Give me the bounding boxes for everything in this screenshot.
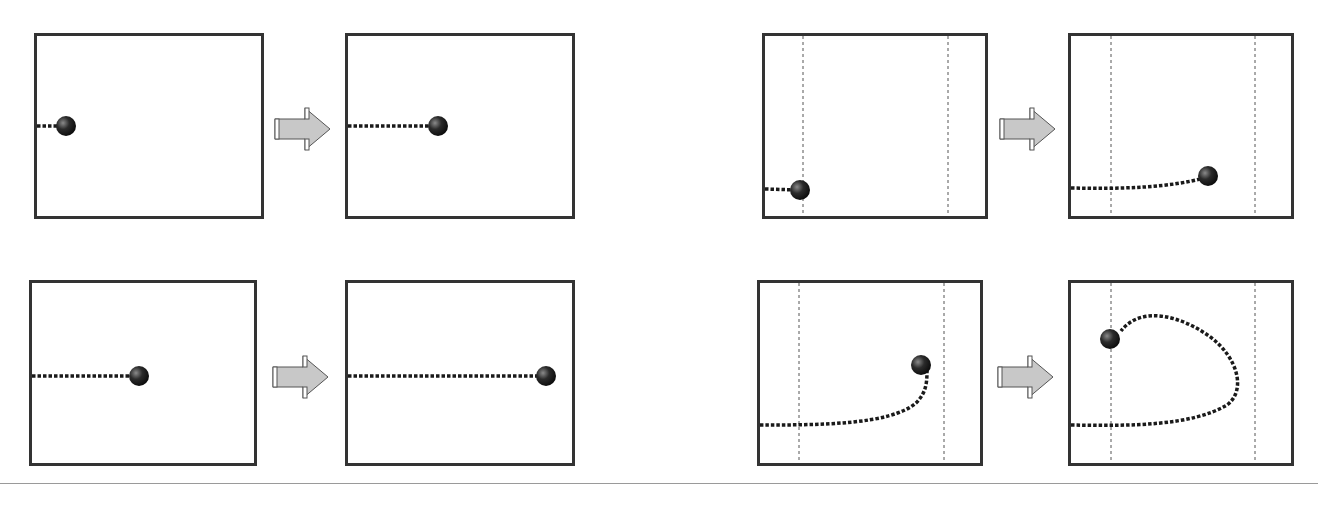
ball-icon (536, 366, 556, 386)
ball-icon (1198, 166, 1218, 186)
ball-icon (56, 116, 76, 136)
bottom-divider-line (0, 483, 1318, 484)
panel-row1-group1-before (34, 33, 264, 219)
panel-row1-group2-before (762, 33, 988, 219)
right-arrow-icon (274, 107, 332, 151)
panel-row2-group1-after (345, 280, 575, 466)
ball-icon (790, 180, 810, 200)
panel-row2-group2-after (1068, 280, 1294, 466)
ball-icon (911, 355, 931, 375)
panel-row1-group1-after (345, 33, 575, 219)
right-arrow-icon (272, 355, 330, 399)
trajectory-path (1071, 316, 1238, 426)
trajectory-path (1071, 177, 1207, 188)
right-arrow-icon (999, 107, 1057, 151)
panel-row1-group2-after (1068, 33, 1294, 219)
ball-icon (129, 366, 149, 386)
right-arrow-icon (997, 355, 1055, 399)
ball-icon (1100, 329, 1120, 349)
panel-row2-group1-before (29, 280, 257, 466)
panel-row2-group2-before (757, 280, 983, 466)
ball-icon (428, 116, 448, 136)
trajectory-path (760, 371, 927, 425)
